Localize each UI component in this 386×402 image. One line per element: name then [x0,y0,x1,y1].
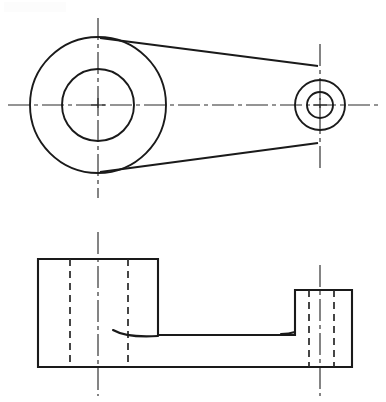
engineering-drawing-sheet [0,0,386,402]
large-boss-center-mark [91,98,105,112]
upper-tangent-line [100,38,318,66]
lower-tangent-line [100,143,318,172]
drawing-canvas [0,0,386,402]
left-fillet-arc [113,330,158,336]
top-view [8,18,378,198]
front-view [38,232,352,396]
small-boss-center-mark [313,98,327,112]
right-fillet-arc [281,332,295,334]
front-view-profile-outline [38,259,352,367]
